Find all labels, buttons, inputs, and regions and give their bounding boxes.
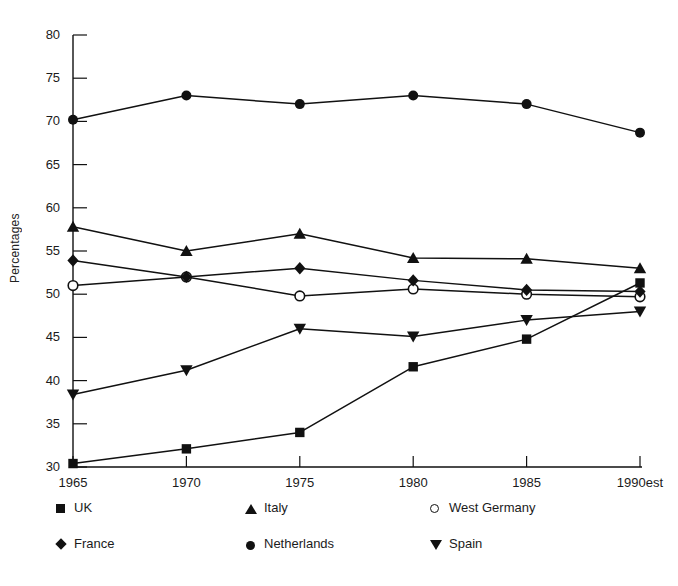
y-tick-label: 50 [30, 286, 60, 301]
x-tick-label: 1990est [595, 475, 678, 490]
y-tick-label: 35 [30, 416, 60, 431]
legend-item-uk[interactable]: UK [55, 500, 92, 515]
chart-figure: Percentages 8075706560555045403530 19651… [0, 0, 678, 586]
x-tick-label: 1985 [482, 475, 572, 490]
legend-item-label: Netherlands [264, 536, 334, 551]
y-ticks [73, 35, 87, 467]
series-spain [67, 306, 646, 400]
legend-item-spain[interactable]: Spain [430, 536, 482, 551]
x-tick-label: 1975 [255, 475, 345, 490]
legend-item-label: France [74, 536, 114, 551]
x-tick-label: 1965 [28, 475, 118, 490]
diamond-marker-icon [55, 538, 67, 550]
x-ticks [73, 456, 640, 467]
y-tick-label: 60 [30, 200, 60, 215]
y-tick-label: 55 [30, 243, 60, 258]
triangle-up-marker-icon [245, 502, 257, 514]
legend-item-netherlands[interactable]: Netherlands [245, 536, 334, 551]
x-tick-label: 1980 [368, 475, 458, 490]
y-tick-label: 65 [30, 157, 60, 172]
square-marker-icon [55, 502, 67, 514]
x-tick-label: 1970 [141, 475, 231, 490]
triangle-down-marker-icon [430, 538, 442, 550]
y-tick-label: 45 [30, 329, 60, 344]
legend-item-west-germany[interactable]: West Germany [430, 500, 535, 515]
series-netherlands [68, 90, 645, 137]
series-italy [67, 221, 646, 273]
circle-filled-marker-icon [245, 538, 257, 550]
y-tick-label: 70 [30, 113, 60, 128]
y-tick-label: 40 [30, 373, 60, 388]
legend-item-label: Spain [449, 536, 482, 551]
y-tick-label: 75 [30, 70, 60, 85]
line-chart-plot [0, 0, 678, 586]
circle-open-marker-icon [430, 502, 442, 514]
legend-item-label: Italy [264, 500, 288, 515]
legend-item-label: UK [74, 500, 92, 515]
y-tick-label: 30 [30, 459, 60, 474]
y-tick-label: 80 [30, 27, 60, 42]
series-uk [68, 278, 644, 468]
chart-legend: UKItalyWest GermanyFranceNetherlandsSpai… [55, 500, 655, 570]
legend-item-label: West Germany [449, 500, 535, 515]
legend-item-italy[interactable]: Italy [245, 500, 288, 515]
legend-item-france[interactable]: France [55, 536, 114, 551]
series-west-germany [68, 272, 645, 301]
